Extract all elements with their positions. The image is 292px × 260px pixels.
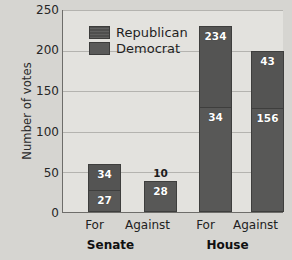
x-tick-label-senate-for: For <box>72 218 117 232</box>
bar-label-house-against-democrat: 156 <box>252 112 283 124</box>
bar-senate-for: 27 34 <box>88 10 121 212</box>
bar-label-senate-for-democrat: 27 <box>89 194 120 206</box>
y-tick-label-250: 250 <box>19 4 59 16</box>
y-tick-label-200: 200 <box>19 44 59 56</box>
y-tick-label-50: 50 <box>19 167 59 179</box>
bar-house-against: 156 43 <box>251 10 284 212</box>
bar-label-senate-against-democrat: 28 <box>145 185 176 197</box>
bar-segment-senate-for-republican: 34 <box>88 164 121 192</box>
bar-segment-senate-against-democrat: 28 <box>144 181 177 212</box>
bar-senate-against: 28 10 <box>144 10 177 212</box>
plot-area: Republican Democrat 27 34 28 <box>62 10 283 213</box>
bar-segment-house-against-democrat: 156 <box>251 108 284 212</box>
bar-house-for: 34 234 <box>199 10 232 212</box>
bar-label-house-against-republican: 43 <box>252 55 283 67</box>
stacked-bar-chart: Number of votes 250 200 150 100 50 0 Rep… <box>0 0 292 260</box>
x-tick-label-house-for: For <box>183 218 228 232</box>
y-tick-label-150: 150 <box>19 85 59 97</box>
y-axis-title: Number of votes <box>20 41 34 181</box>
bar-label-senate-for-republican: 34 <box>89 168 120 180</box>
x-tick-label-house-against: Against <box>228 218 283 232</box>
y-tick-label-100: 100 <box>19 126 59 138</box>
bar-label-house-for-democrat: 34 <box>200 111 231 123</box>
bar-label-house-for-republican: 234 <box>200 30 231 42</box>
bar-label-senate-against-republican: 10 <box>144 167 177 179</box>
bar-segment-senate-for-democrat: 27 <box>88 190 121 212</box>
x-group-label-house: House <box>190 238 265 252</box>
x-tick-label-senate-against: Against <box>120 218 175 232</box>
bar-segment-house-for-democrat: 34 <box>199 107 232 212</box>
y-tick-label-0: 0 <box>19 207 59 219</box>
bar-segment-house-against-republican: 43 <box>251 51 284 109</box>
x-group-label-senate: Senate <box>73 238 148 252</box>
bar-segment-house-for-republican: 234 <box>199 26 232 108</box>
